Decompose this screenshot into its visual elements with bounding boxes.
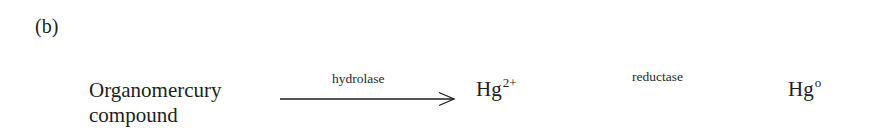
panel-label: (b) bbox=[35, 14, 58, 38]
intermediate-hg2plus: Hg2+ bbox=[476, 77, 517, 104]
reactant-name-line2: compound bbox=[89, 103, 178, 128]
intermediate-charge: 2+ bbox=[503, 75, 517, 90]
intermediate-symbol: Hg bbox=[476, 77, 502, 101]
reaction-arrow-icon bbox=[279, 91, 457, 107]
product-oxidation-state: o bbox=[815, 75, 822, 90]
enzyme-label-hydrolase: hydrolase bbox=[332, 71, 384, 87]
product-hg0: Hgo bbox=[788, 77, 821, 104]
reactant-name-line1: Organomercury bbox=[89, 78, 222, 103]
enzyme-label-reductase: reductase bbox=[632, 69, 683, 85]
product-symbol: Hg bbox=[788, 77, 814, 101]
